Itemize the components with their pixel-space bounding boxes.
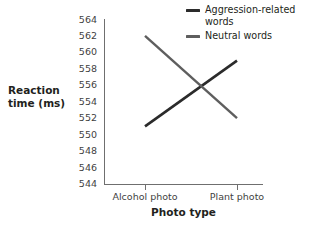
y-tick-label: 546 [79, 163, 97, 173]
x-axis-title: Photo type [104, 206, 263, 218]
x-tick-label: Alcohol photo [112, 191, 177, 202]
y-axis-line [104, 19, 105, 185]
y-tick-label: 562 [79, 31, 97, 41]
y-tick-label: 560 [79, 47, 97, 57]
legend-item: Neutral words [186, 30, 326, 42]
series-line [145, 61, 237, 127]
y-tick-label: 544 [79, 179, 97, 189]
x-tick-label: Plant photo [210, 191, 264, 202]
y-axis-tick-labels: 564562560558556554552550548546544 [62, 14, 100, 189]
series-line [145, 36, 237, 118]
y-tick-label: 554 [79, 97, 97, 107]
y-tick-label: 552 [79, 113, 97, 123]
legend-label: Neutral words [205, 30, 272, 42]
legend-swatch-icon [186, 9, 200, 12]
y-tick-label: 556 [79, 80, 97, 90]
legend-label: Aggression-related words [205, 4, 326, 28]
x-axis-tick [237, 185, 238, 190]
y-tick-label: 558 [79, 64, 97, 74]
chart-legend: Aggression-related wordsNeutral words [186, 4, 326, 44]
legend-item: Aggression-related words [186, 4, 326, 28]
x-axis-tick [145, 185, 146, 190]
y-tick-label: 550 [79, 130, 97, 140]
x-axis-line [104, 184, 263, 185]
line-chart: Reaction time (ms) 564562560558556554552… [0, 0, 327, 227]
y-tick-label: 548 [79, 146, 97, 156]
y-tick-label: 564 [79, 15, 97, 25]
legend-swatch-icon [186, 35, 200, 38]
